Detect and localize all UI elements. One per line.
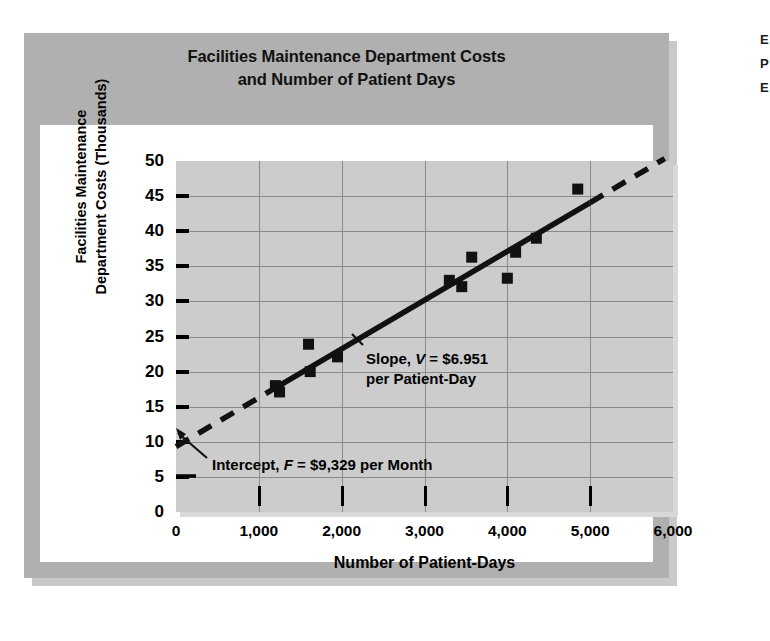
slope-annotation-line-1: Slope, V = $6.951 [366, 349, 488, 369]
x-axis-tick-mark [424, 486, 427, 506]
x-axis-tick-label: 6,000 [638, 523, 708, 539]
slope-annotation-prefix: Slope, [366, 350, 415, 367]
y-axis-tick-mark [176, 370, 189, 374]
y-axis-title-line-1: Facilities Maintenance [72, 17, 92, 357]
x-axis-tick-mark [506, 486, 509, 506]
y-axis-tick-label: 50 [124, 152, 164, 169]
intercept-variable: F [284, 456, 293, 473]
slope-annotation-line-2: per Patient-Day [366, 369, 488, 389]
y-axis-tick-label: 45 [124, 187, 164, 204]
y-axis-tick-label: 10 [124, 433, 164, 450]
gridline-vertical [590, 161, 591, 512]
intercept-annotation: Intercept, F = $9,329 per Month [212, 455, 433, 475]
y-axis-tick-mark [176, 264, 189, 268]
intercept-annotation-suffix: = $9,329 per Month [293, 456, 433, 473]
y-axis-tick-mark [176, 299, 189, 303]
x-axis-tick-label: 4,000 [472, 523, 542, 539]
chart-title-line-2: and Number of Patient Days [24, 68, 669, 91]
gridline-vertical [507, 161, 508, 512]
x-axis-tick-label: 3,000 [390, 523, 460, 539]
slope-annotation-suffix: = $6.951 [425, 350, 488, 367]
y-axis-tick-mark [176, 405, 189, 409]
y-axis-tick-mark [176, 229, 189, 233]
y-axis-tick-label: 15 [124, 398, 164, 415]
margin-note-line-2: P [760, 52, 770, 76]
y-axis-tick-mark [176, 440, 189, 444]
x-axis-tick-mark [589, 486, 592, 506]
x-axis-tick-label: 2,000 [307, 523, 377, 539]
y-axis-title-line-2: Department Costs (Thousands) [92, 17, 112, 357]
y-axis-tick-label: 0 [124, 503, 164, 520]
y-axis-tick-label: 5 [124, 468, 164, 485]
x-axis-tick-mark [258, 486, 261, 506]
y-axis-tick-label: 40 [124, 222, 164, 239]
page-margin-note: E P E [760, 28, 770, 100]
chart-title-line-1: Facilities Maintenance Department Costs [24, 45, 669, 68]
y-axis-tick-label: 30 [124, 292, 164, 309]
margin-note-line-1: E [760, 28, 770, 52]
slope-variable: V [415, 350, 425, 367]
x-axis-tick-label: 0 [141, 523, 211, 539]
y-axis-title: Facilities Maintenance Department Costs … [72, 17, 111, 357]
x-axis-tick-label: 5,000 [555, 523, 625, 539]
slope-annotation: Slope, V = $6.951 per Patient-Day [366, 349, 488, 389]
intercept-annotation-prefix: Intercept, [212, 456, 284, 473]
y-axis-tick-label: 25 [124, 328, 164, 345]
y-axis-tick-mark [176, 335, 189, 339]
x-axis-title: Number of Patient-Days [176, 554, 673, 572]
plot-panel-shadow-bottom [180, 512, 677, 517]
chart-title: Facilities Maintenance Department Costs … [24, 45, 669, 92]
x-axis-tick-label: 1,000 [224, 523, 294, 539]
exhibit-frame-shadow-bottom [32, 578, 677, 586]
y-axis-tick-mark [176, 194, 189, 198]
plot-panel-shadow-right [673, 165, 678, 516]
margin-note-line-3: E [760, 76, 770, 100]
y-axis-tick-mark [176, 475, 189, 479]
x-axis-tick-mark [341, 486, 344, 506]
y-axis-tick-label: 35 [124, 257, 164, 274]
y-axis-tick-label: 20 [124, 363, 164, 380]
